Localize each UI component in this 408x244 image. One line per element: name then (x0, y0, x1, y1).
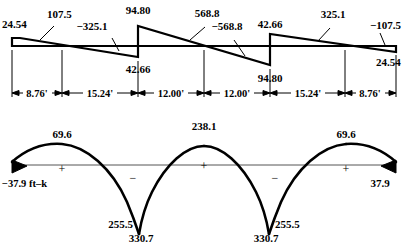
moment-curve-span3-right (346, 144, 396, 162)
leader-568-left (190, 27, 205, 40)
leader-left-107 (40, 26, 54, 40)
moment-label-peak3: 69.6 (336, 128, 356, 140)
sign-minus-right: − (272, 171, 279, 185)
leader-span1-neg (112, 38, 119, 51)
shear-label-left-leader: 107.5 (47, 8, 72, 20)
dim-label-5: 8.76' (359, 88, 380, 99)
shear-label-span5-pos: 325.1 (321, 8, 346, 20)
dim-arrow-1-left (62, 91, 69, 96)
moment-label-neg2-outer: 330.7 (254, 232, 279, 244)
sign-minus-left: − (130, 171, 137, 185)
sign-plus-span3: + (343, 162, 350, 176)
moment-label-neg2-inner: 255.5 (275, 218, 300, 230)
shear-diagram: 24.54 107.5 −325.1 42.66 94.80 568.8 −56… (0, 0, 408, 110)
moment-label-neg1-inner: 255.5 (108, 218, 133, 230)
shear-label-left-end: 24.54 (2, 18, 27, 30)
dim-label-1: 15.24' (87, 88, 114, 99)
dim-arrow-2-left (138, 91, 145, 96)
moment-label-neg1-outer: 330.7 (129, 232, 154, 244)
moment-left-end-wedge (12, 160, 27, 173)
dim-arrow-5-left (345, 91, 352, 96)
figure-canvas: 24.54 107.5 −325.1 42.66 94.80 568.8 −56… (0, 0, 408, 244)
dim-label-0: 8.76' (26, 88, 47, 99)
shear-label-area-568-right: −568.8 (211, 20, 243, 32)
dim-label-4: 15.24' (295, 88, 322, 99)
moment-diagram: + − + − + −37.9 ft–k 69.6 238.1 69.6 255… (0, 110, 408, 244)
moment-label-peak-center: 238.1 (192, 120, 217, 132)
dim-label-2: 12.00' (158, 88, 185, 99)
shear-label-jump2: 42.66 (258, 18, 283, 30)
dim-arrow-5-right (389, 91, 396, 96)
dim-arrow-3-left (204, 91, 211, 96)
shear-label-span1-neg: −325.1 (76, 20, 107, 32)
shear-label-area-568-left: 568.8 (195, 7, 220, 19)
moment-label-peak1: 69.6 (52, 128, 72, 140)
moment-label-left-end: −37.9 ft–k (2, 178, 47, 189)
leader-568-right (234, 40, 245, 56)
sign-plus-center: + (201, 159, 208, 173)
shear-label-right-end: 24.54 (376, 56, 401, 68)
moment-right-end-wedge (381, 160, 396, 173)
dim-label-3: 12.00' (224, 88, 251, 99)
moment-curve-span2-right (204, 146, 269, 234)
dim-arrow-0-left (12, 91, 19, 96)
dim-arrow-4-left (270, 91, 277, 96)
shear-label-right-leader: −107.5 (370, 19, 402, 31)
shear-label-jump1: 94.80 (126, 4, 151, 16)
moment-label-right-end: 37.9 (370, 177, 390, 189)
leader-span5-pos (318, 28, 330, 41)
leader-right-107 (380, 33, 385, 45)
sign-plus-span1: + (59, 162, 66, 176)
moment-curve-span2-left (139, 146, 204, 234)
